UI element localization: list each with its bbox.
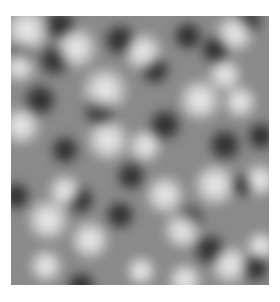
dark-blob bbox=[206, 126, 244, 164]
light-blob bbox=[79, 64, 132, 117]
light-blob bbox=[68, 218, 111, 261]
light-blob bbox=[213, 16, 256, 55]
light-blob bbox=[11, 104, 43, 147]
light-blob bbox=[124, 254, 158, 285]
light-blob bbox=[84, 116, 132, 164]
noise-texture-image bbox=[11, 16, 269, 285]
noise-field bbox=[11, 16, 269, 285]
light-blob bbox=[126, 127, 164, 165]
dark-blob bbox=[64, 269, 98, 285]
light-blob bbox=[244, 229, 269, 263]
light-blob bbox=[143, 173, 186, 216]
dark-blob bbox=[244, 119, 269, 153]
light-blob bbox=[191, 161, 239, 209]
light-blob bbox=[221, 83, 259, 121]
light-blob bbox=[52, 24, 100, 72]
light-blob bbox=[27, 247, 65, 285]
light-blob bbox=[46, 172, 84, 210]
light-blob bbox=[121, 30, 164, 73]
dark-blob bbox=[48, 133, 82, 167]
